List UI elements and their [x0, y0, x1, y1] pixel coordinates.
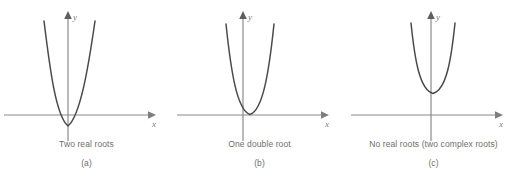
parabola-curve-a: [44, 21, 95, 126]
y-axis-arrow-a: [64, 11, 72, 19]
plot-c: x y: [347, 0, 520, 145]
y-axis-label-a: y: [72, 12, 77, 22]
panel-description-a: Two real roots: [0, 139, 173, 149]
panel-label-a: (a): [0, 158, 173, 168]
x-axis-label-b: x: [324, 119, 329, 129]
x-axis-label-c: x: [498, 119, 503, 129]
panel-no-real-roots: x y No real roots (two complex roots) (c…: [347, 0, 520, 190]
x-axis-label-a: x: [151, 119, 156, 129]
y-axis-arrow-b: [239, 11, 247, 19]
panel-two-real-roots: x y Two real roots (a): [0, 0, 173, 190]
plot-b: x y: [173, 0, 346, 145]
panel-description-c: No real roots (two complex roots): [347, 139, 520, 149]
x-axis-arrow-a: [148, 111, 156, 119]
y-axis-label-c: y: [435, 12, 440, 22]
y-axis-label-b: y: [247, 12, 252, 22]
panel-label-c: (c): [347, 158, 520, 168]
plot-a: x y: [0, 0, 173, 145]
x-axis-arrow-b: [321, 111, 329, 119]
panel-one-double-root: x y One double root (b): [173, 0, 346, 190]
quadratic-roots-figure: x y Two real roots (a) x y One double ro…: [0, 0, 520, 190]
x-axis-arrow-c: [495, 111, 503, 119]
parabola-curve-b: [226, 24, 274, 115]
panel-description-b: One double root: [173, 139, 346, 149]
y-axis-arrow-c: [427, 11, 435, 19]
panel-label-b: (b): [173, 158, 346, 168]
parabola-curve-c: [411, 23, 455, 94]
